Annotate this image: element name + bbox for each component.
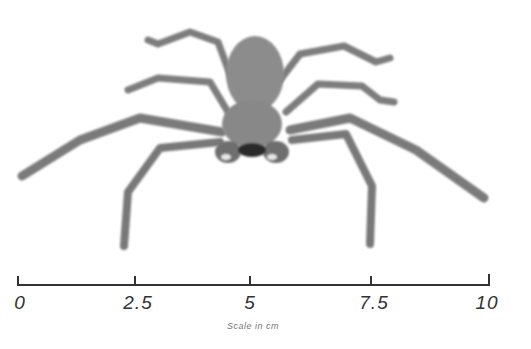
left-leg-1 [148,32,232,80]
tick-label-0: 0 [14,292,26,314]
right-leg-4 [292,134,372,244]
left-leg-2 [128,78,228,112]
right-leg-3 [290,118,484,198]
scale-ruler [0,268,531,290]
tick-label-10: 10 [475,292,498,314]
tick-label-7-5: 7.5 [359,292,388,314]
right-leg-2 [286,84,394,112]
left-leg-4 [124,142,220,246]
tick-label-5: 5 [244,292,256,314]
right-leg-1 [280,46,390,80]
tick-label-2-5: 2.5 [123,292,152,314]
spider-icon [0,0,531,270]
eyes [238,143,266,157]
cephalothorax [222,100,282,148]
spider-illustration [0,0,531,270]
scale-caption: Scale in cm [227,321,279,331]
scale-bar: 0 2.5 5 7.5 10 Scale in cm [0,268,531,349]
